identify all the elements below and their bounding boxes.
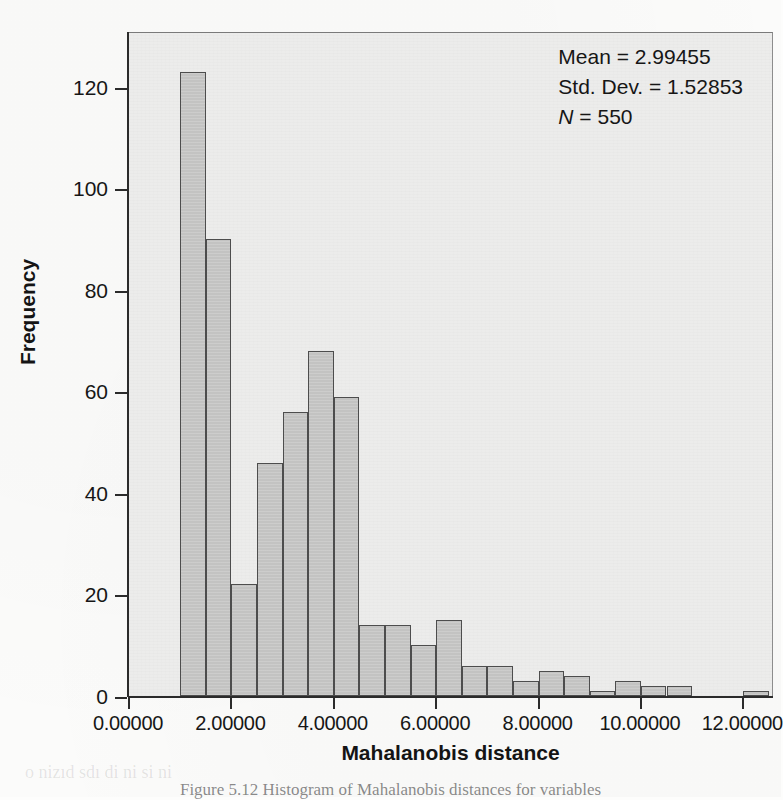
histogram-bar	[436, 620, 462, 696]
y-axis-line	[127, 32, 129, 697]
x-tick	[538, 698, 540, 709]
figure-caption: Figure 5.12 Histogram of Mahalanobis dis…	[0, 780, 781, 800]
y-tick-label: 60	[48, 380, 108, 404]
histogram-bar	[231, 584, 257, 696]
histogram-bar	[564, 676, 590, 696]
histogram-bar	[615, 681, 641, 696]
x-tick-label: 8.00000	[502, 712, 572, 735]
x-tick	[230, 698, 232, 709]
histogram-bars	[129, 33, 772, 696]
x-tick-label: 0.00000	[93, 712, 163, 735]
statistics-annotation: Mean = 2.99455 Std. Dev. = 1.52853 N = 5…	[558, 42, 743, 131]
x-tick-label: 6.00000	[400, 712, 470, 735]
y-tick	[115, 88, 127, 90]
x-tick	[128, 698, 130, 709]
y-tick	[115, 392, 127, 394]
y-tick	[115, 291, 127, 293]
stat-n-value: = 550	[574, 105, 633, 128]
x-tick	[333, 698, 335, 709]
histogram-bar	[283, 412, 309, 696]
histogram-bar	[257, 463, 283, 697]
stat-n: N = 550	[558, 102, 743, 132]
y-tick-label: 100	[48, 177, 108, 201]
histogram-bar	[667, 686, 693, 696]
x-tick-label: 12.00000	[702, 712, 783, 735]
x-tick-label: 2.00000	[195, 712, 265, 735]
x-tick	[640, 698, 642, 709]
histogram-bar	[411, 645, 437, 696]
x-tick-label: 4.00000	[298, 712, 368, 735]
histogram-bar	[641, 686, 667, 696]
histogram-bar	[539, 671, 565, 696]
histogram-bar	[334, 397, 360, 697]
histogram-bar	[206, 239, 232, 696]
stat-mean: Mean = 2.99455	[558, 42, 743, 72]
y-tick-label: 20	[48, 583, 108, 607]
x-axis-line	[128, 696, 773, 698]
x-tick	[742, 698, 744, 709]
plot-area	[128, 32, 773, 697]
y-tick	[115, 189, 127, 191]
histogram-bar	[359, 625, 385, 696]
y-tick	[115, 595, 127, 597]
x-tick	[435, 698, 437, 709]
x-tick-label: 10.00000	[599, 712, 680, 735]
histogram-bar	[462, 666, 488, 696]
y-axis-title: Frequency	[16, 212, 40, 412]
stat-std-dev: Std. Dev. = 1.52853	[558, 72, 743, 102]
y-tick-label: 80	[48, 279, 108, 303]
y-tick	[115, 697, 127, 699]
histogram-bar	[513, 681, 539, 696]
y-tick-label: 120	[48, 76, 108, 100]
histogram-bar	[180, 72, 206, 696]
y-tick-label: 0	[48, 685, 108, 709]
y-tick	[115, 494, 127, 496]
stat-n-symbol: N	[558, 105, 573, 128]
histogram-bar	[308, 351, 334, 696]
y-tick-label: 40	[48, 482, 108, 506]
histogram-bar	[487, 666, 513, 696]
x-axis-title: Mahalanobis distance	[128, 741, 773, 765]
histogram-bar	[385, 625, 411, 696]
